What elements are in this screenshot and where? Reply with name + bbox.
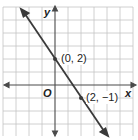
- line-graph: [21, 9, 108, 136]
- x-axis-label: x: [124, 87, 132, 99]
- point-0-2: [53, 57, 57, 61]
- y-axis-label: y: [43, 6, 51, 18]
- coordinate-graph: (0, 2) (2, −1) y x O: [0, 0, 138, 140]
- origin-label: O: [43, 87, 52, 99]
- point-label-2-neg1: (2, −1): [86, 91, 118, 103]
- point-label-0-2: (0, 2): [61, 52, 87, 64]
- point-2-neg1: [79, 96, 83, 100]
- line-arrow-up-icon: [21, 9, 29, 17]
- grid: [3, 7, 133, 136]
- x-axis-arrow-left-icon: [4, 83, 9, 88]
- y-axis-arrow-down-icon: [53, 131, 58, 136]
- axes: [4, 6, 136, 136]
- x-axis-arrow-icon: [131, 83, 136, 88]
